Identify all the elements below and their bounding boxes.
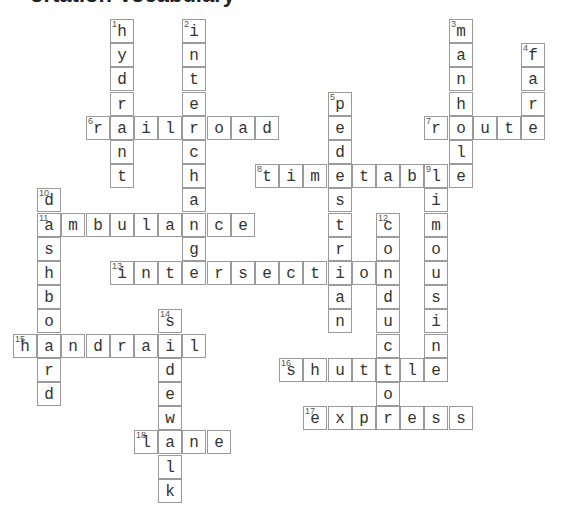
- crossword-cell[interactable]: a: [37, 334, 61, 358]
- crossword-cell[interactable]: a: [182, 188, 206, 212]
- crossword-cell[interactable]: a: [110, 116, 134, 140]
- crossword-cell[interactable]: e: [207, 430, 231, 454]
- crossword-cell[interactable]: 3m: [449, 19, 473, 43]
- crossword-cell[interactable]: b: [86, 213, 110, 237]
- crossword-cell[interactable]: t: [110, 164, 134, 188]
- crossword-cell[interactable]: s: [424, 285, 448, 309]
- crossword-cell[interactable]: l: [182, 334, 206, 358]
- crossword-cell[interactable]: c: [182, 140, 206, 164]
- crossword-cell[interactable]: e: [328, 164, 352, 188]
- crossword-cell[interactable]: n: [182, 430, 206, 454]
- crossword-cell[interactable]: a: [231, 116, 255, 140]
- crossword-cell[interactable]: p: [352, 406, 376, 430]
- crossword-cell[interactable]: e: [158, 382, 182, 406]
- crossword-cell[interactable]: a: [158, 213, 182, 237]
- crossword-cell[interactable]: e: [449, 164, 473, 188]
- crossword-cell[interactable]: 9l: [424, 164, 448, 188]
- crossword-cell[interactable]: s: [37, 237, 61, 261]
- crossword-cell[interactable]: a: [328, 285, 352, 309]
- crossword-cell[interactable]: c: [279, 261, 303, 285]
- crossword-cell[interactable]: u: [424, 261, 448, 285]
- crossword-cell[interactable]: t: [303, 261, 327, 285]
- crossword-cell[interactable]: n: [376, 261, 400, 285]
- crossword-cell[interactable]: i: [134, 116, 158, 140]
- crossword-cell[interactable]: n: [110, 140, 134, 164]
- crossword-cell[interactable]: 4f: [521, 43, 545, 67]
- crossword-cell[interactable]: i: [158, 334, 182, 358]
- crossword-cell[interactable]: m: [424, 213, 448, 237]
- crossword-cell[interactable]: r: [37, 358, 61, 382]
- crossword-cell[interactable]: n: [449, 67, 473, 91]
- crossword-cell[interactable]: n: [424, 334, 448, 358]
- crossword-cell[interactable]: e: [400, 406, 424, 430]
- crossword-cell[interactable]: n: [134, 261, 158, 285]
- crossword-cell[interactable]: o: [449, 116, 473, 140]
- crossword-cell[interactable]: o: [424, 237, 448, 261]
- crossword-cell[interactable]: e: [255, 261, 279, 285]
- crossword-cell[interactable]: e: [231, 213, 255, 237]
- crossword-cell[interactable]: 1h: [110, 19, 134, 43]
- crossword-cell[interactable]: s: [449, 406, 473, 430]
- crossword-cell[interactable]: 2i: [182, 19, 206, 43]
- crossword-cell[interactable]: e: [521, 116, 545, 140]
- crossword-cell[interactable]: h: [303, 358, 327, 382]
- crossword-cell[interactable]: t: [328, 213, 352, 237]
- crossword-cell[interactable]: d: [328, 140, 352, 164]
- crossword-cell[interactable]: w: [158, 406, 182, 430]
- crossword-cell[interactable]: n: [328, 309, 352, 333]
- crossword-cell[interactable]: 8t: [255, 164, 279, 188]
- crossword-cell[interactable]: h: [182, 164, 206, 188]
- crossword-cell[interactable]: a: [158, 430, 182, 454]
- crossword-cell[interactable]: r: [182, 116, 206, 140]
- crossword-cell[interactable]: r: [110, 92, 134, 116]
- crossword-cell[interactable]: t: [497, 116, 521, 140]
- crossword-cell[interactable]: n: [182, 213, 206, 237]
- crossword-cell[interactable]: d: [376, 285, 400, 309]
- crossword-cell[interactable]: m: [303, 164, 327, 188]
- crossword-cell[interactable]: 12c: [376, 213, 400, 237]
- crossword-cell[interactable]: 18l: [134, 430, 158, 454]
- crossword-cell[interactable]: r: [376, 406, 400, 430]
- crossword-cell[interactable]: e: [182, 261, 206, 285]
- crossword-cell[interactable]: a: [449, 43, 473, 67]
- crossword-cell[interactable]: y: [110, 43, 134, 67]
- crossword-cell[interactable]: e: [182, 92, 206, 116]
- crossword-cell[interactable]: s: [328, 188, 352, 212]
- crossword-cell[interactable]: l: [134, 213, 158, 237]
- crossword-cell[interactable]: d: [110, 67, 134, 91]
- crossword-cell[interactable]: t: [352, 164, 376, 188]
- crossword-cell[interactable]: h: [449, 92, 473, 116]
- crossword-cell[interactable]: 15h: [13, 334, 37, 358]
- crossword-cell[interactable]: i: [279, 164, 303, 188]
- crossword-cell[interactable]: 7r: [424, 116, 448, 140]
- crossword-cell[interactable]: s: [424, 406, 448, 430]
- crossword-cell[interactable]: 14s: [158, 309, 182, 333]
- crossword-cell[interactable]: l: [158, 455, 182, 479]
- crossword-cell[interactable]: a: [376, 164, 400, 188]
- crossword-cell[interactable]: c: [207, 213, 231, 237]
- crossword-cell[interactable]: n: [182, 43, 206, 67]
- crossword-cell[interactable]: o: [207, 116, 231, 140]
- crossword-cell[interactable]: g: [182, 237, 206, 261]
- crossword-cell[interactable]: h: [37, 261, 61, 285]
- crossword-cell[interactable]: b: [37, 285, 61, 309]
- crossword-cell[interactable]: o: [376, 382, 400, 406]
- crossword-cell[interactable]: t: [352, 358, 376, 382]
- crossword-cell[interactable]: x: [328, 406, 352, 430]
- crossword-cell[interactable]: 13i: [110, 261, 134, 285]
- crossword-cell[interactable]: l: [449, 140, 473, 164]
- crossword-cell[interactable]: n: [61, 334, 85, 358]
- crossword-cell[interactable]: o: [37, 309, 61, 333]
- crossword-cell[interactable]: i: [328, 261, 352, 285]
- crossword-cell[interactable]: 10d: [37, 188, 61, 212]
- crossword-cell[interactable]: t: [182, 67, 206, 91]
- crossword-cell[interactable]: e: [328, 116, 352, 140]
- crossword-cell[interactable]: u: [328, 358, 352, 382]
- crossword-cell[interactable]: u: [376, 309, 400, 333]
- crossword-cell[interactable]: 11a: [37, 213, 61, 237]
- crossword-cell[interactable]: r: [110, 334, 134, 358]
- crossword-cell[interactable]: a: [521, 67, 545, 91]
- crossword-cell[interactable]: u: [110, 213, 134, 237]
- crossword-cell[interactable]: 17e: [303, 406, 327, 430]
- crossword-cell[interactable]: i: [424, 188, 448, 212]
